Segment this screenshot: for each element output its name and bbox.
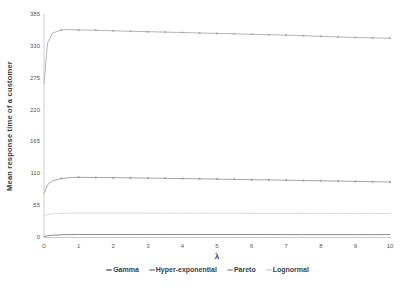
y-tick-label: 0 xyxy=(37,234,41,240)
legend-item-pareto: Pareto xyxy=(227,266,256,273)
x-tick-label: 10 xyxy=(387,243,394,249)
x-tick-label: 7 xyxy=(285,243,289,249)
chart-figure: 055110165220275330385012345678910 Mean r… xyxy=(0,0,415,292)
series-marker-pareto xyxy=(147,31,149,33)
series-marker-hyper-exponential xyxy=(147,177,149,179)
series-marker-hyper-exponential xyxy=(303,180,305,182)
series-marker-pareto xyxy=(285,34,287,36)
lognormal-line-swatch-icon xyxy=(266,269,272,271)
series-marker-hyper-exponential xyxy=(285,179,287,181)
series-marker-pareto xyxy=(130,30,132,32)
series-marker-pareto xyxy=(372,37,374,39)
series-marker-pareto xyxy=(268,34,270,36)
series-marker-pareto xyxy=(303,35,305,37)
x-tick-label: 5 xyxy=(215,243,219,249)
y-tick-label: 330 xyxy=(30,43,41,49)
x-tick-label: 8 xyxy=(319,243,323,249)
series-marker-hyper-exponential xyxy=(130,177,132,179)
legend-item-lognormal: Lognormal xyxy=(266,266,309,273)
series-marker-hyper-exponential xyxy=(251,179,253,181)
series-marker-pareto xyxy=(320,35,322,37)
series-marker-hyper-exponential xyxy=(95,176,97,178)
series-marker-pareto xyxy=(112,30,114,32)
series-marker-pareto xyxy=(78,29,80,31)
legend: Gamma Hyper-exponential Pareto Lognormal xyxy=(0,266,415,273)
x-tick-label: 6 xyxy=(250,243,254,249)
series-marker-hyper-exponential xyxy=(233,178,235,180)
x-tick-label: 9 xyxy=(354,243,358,249)
series-marker-pareto xyxy=(60,29,62,31)
plot-area: 055110165220275330385012345678910 xyxy=(0,0,415,292)
series-marker-hyper-exponential xyxy=(216,178,218,180)
legend-item-hyper-exponential: Hyper-exponential xyxy=(149,266,217,273)
legend-label-gamma: Gamma xyxy=(113,266,139,273)
series-marker-hyper-exponential xyxy=(164,177,166,179)
x-tick-label: 0 xyxy=(42,243,46,249)
series-marker-pareto xyxy=(337,36,339,38)
series-marker-pareto xyxy=(199,32,201,34)
series-marker-pareto xyxy=(354,36,356,38)
x-axis-title: λ xyxy=(215,252,219,261)
pareto-line-swatch-icon xyxy=(227,269,233,271)
series-marker-hyper-exponential xyxy=(199,178,201,180)
x-tick-label: 1 xyxy=(77,243,81,249)
series-marker-hyper-exponential xyxy=(78,176,80,178)
legend-label-lognormal: Lognormal xyxy=(273,266,309,273)
series-line-lognormal xyxy=(44,213,390,216)
y-tick-label: 220 xyxy=(30,107,41,113)
legend-item-gamma: Gamma xyxy=(106,266,139,273)
legend-label-hyper-exponential: Hyper-exponential xyxy=(156,266,217,273)
series-marker-pareto xyxy=(164,31,166,33)
hyper-exponential-line-swatch-icon xyxy=(149,269,155,271)
y-tick-label: 55 xyxy=(33,202,40,208)
x-tick-label: 2 xyxy=(112,243,116,249)
series-marker-hyper-exponential xyxy=(372,181,374,183)
series-marker-hyper-exponential xyxy=(112,177,114,179)
y-tick-label: 110 xyxy=(30,170,40,176)
series-marker-pareto xyxy=(181,32,183,34)
gamma-line-swatch-icon xyxy=(106,269,112,271)
series-marker-hyper-exponential xyxy=(268,179,270,181)
series-marker-hyper-exponential xyxy=(320,180,322,182)
series-marker-hyper-exponential xyxy=(337,180,339,182)
series-marker-hyper-exponential xyxy=(181,178,183,180)
series-marker-pareto xyxy=(95,29,97,31)
y-tick-label: 275 xyxy=(30,75,41,81)
series-line-gamma xyxy=(44,235,390,237)
series-marker-pareto xyxy=(251,33,253,35)
y-tick-label: 385 xyxy=(30,11,41,17)
x-tick-label: 4 xyxy=(181,243,185,249)
series-marker-pareto xyxy=(389,37,391,39)
series-marker-pareto xyxy=(216,32,218,34)
legend-label-pareto: Pareto xyxy=(234,266,256,273)
series-marker-hyper-exponential xyxy=(60,177,62,179)
series-marker-hyper-exponential xyxy=(354,180,356,182)
y-tick-label: 165 xyxy=(30,138,41,144)
y-axis-title: Mean response time of a customer xyxy=(5,61,14,191)
x-tick-label: 3 xyxy=(146,243,150,249)
series-marker-pareto xyxy=(233,33,235,35)
series-marker-hyper-exponential xyxy=(389,181,391,183)
